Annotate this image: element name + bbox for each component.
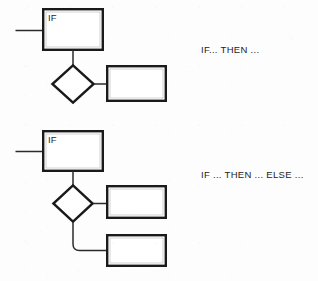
connector-diamond-to-else-bottom [73,222,108,251]
then-action-box-top-fill [107,66,166,101]
caption-if-then: IF... THEN ... [201,44,259,55]
caption-if-then-else: IF ... THEN ... ELSE ... [201,169,304,180]
condition-box-top-label: IF [48,13,57,23]
else-action-box-bottom-fill [107,235,166,266]
then-action-box-bottom-fill [107,186,166,218]
decision-diamond-bottom-fill [53,185,93,222]
condition-box-bottom-label: IF [48,135,57,145]
flowchart-canvas: IF IF IF... THEN ... IF ... THEN ... ELS… [0,0,318,281]
decision-diamond-top-fill [52,65,94,103]
